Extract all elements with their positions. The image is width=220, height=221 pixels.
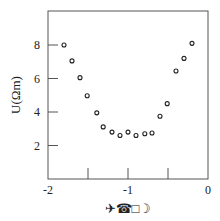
y-axis-title: U(Ωm) <box>8 76 23 114</box>
data-point <box>62 43 66 47</box>
data-point <box>182 56 186 60</box>
data-point <box>158 114 162 118</box>
x-tick-label: -2 <box>43 183 53 197</box>
data-point <box>101 125 105 129</box>
data-point <box>126 130 130 134</box>
data-point <box>85 94 89 98</box>
x-tick-label: 0 <box>205 183 211 197</box>
data-point <box>143 132 147 136</box>
data-point <box>118 133 122 137</box>
data-point <box>150 131 154 135</box>
data-point <box>174 69 178 73</box>
y-tick-label: 6 <box>34 72 40 86</box>
scatter-chart: -2-10 2468 ✈☎□☽ U(Ωm) <box>0 0 220 221</box>
data-point <box>134 133 138 137</box>
x-axis: -2-10 <box>43 168 211 197</box>
x-axis-title: ✈☎□☽ <box>105 201 152 216</box>
y-tick-label: 8 <box>34 38 40 52</box>
data-point <box>95 111 99 115</box>
y-axis: 2468 <box>34 38 58 153</box>
x-tick-label: -1 <box>123 183 133 197</box>
data-point <box>165 102 169 106</box>
data-point <box>110 130 114 134</box>
data-point <box>70 59 74 63</box>
y-tick-label: 4 <box>34 105 40 119</box>
plot-frame <box>48 11 208 179</box>
data-points <box>62 41 194 137</box>
data-point <box>190 41 194 45</box>
y-tick-label: 2 <box>34 139 40 153</box>
data-point <box>78 76 82 80</box>
